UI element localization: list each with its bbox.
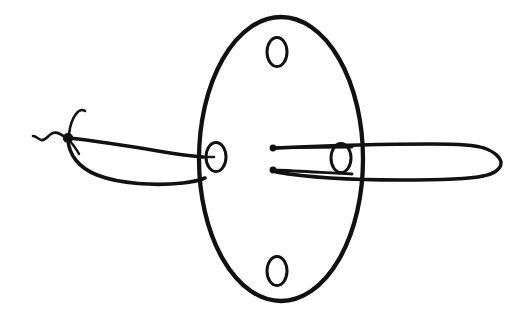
inner-line-upper-dot: [270, 145, 277, 152]
inner-line-lower-dot: [270, 167, 277, 174]
paper-background: [0, 0, 528, 319]
ink-drawing: [0, 0, 528, 319]
inner-line-upper: [274, 147, 352, 148]
drawing-canvas: [0, 0, 528, 319]
